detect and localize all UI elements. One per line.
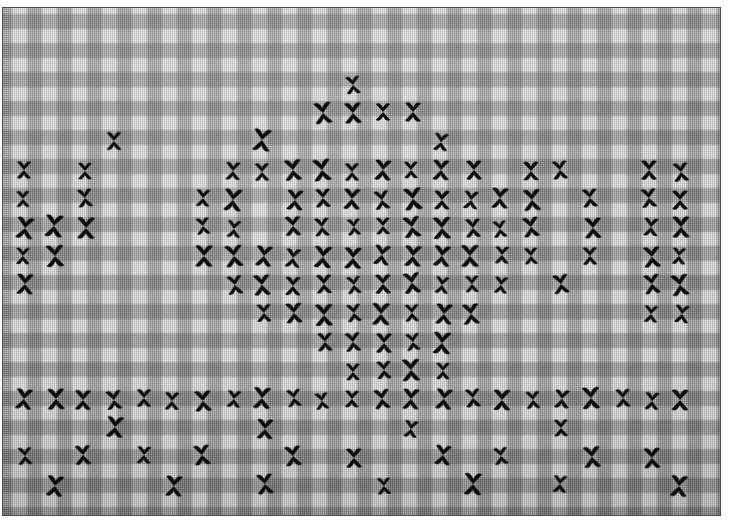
cross-stitch (343, 75, 364, 96)
cross-stitch (493, 246, 512, 265)
cross-stitch (549, 159, 570, 180)
cross-stitch (224, 274, 246, 296)
cross-stitch (462, 387, 483, 408)
cross-stitch (374, 217, 392, 235)
cross-stitch (162, 475, 185, 498)
cross-stitch (491, 219, 511, 239)
cross-stitch (282, 276, 302, 296)
cross-stitch (251, 274, 274, 297)
cross-stitch (372, 274, 393, 295)
cross-stitch (43, 474, 67, 498)
cross-stitch (581, 217, 603, 239)
cross-stitch (430, 159, 452, 181)
cross-stitch (344, 303, 364, 323)
cross-stitch (375, 477, 394, 496)
cross-stitch (430, 216, 454, 240)
cross-stitch (403, 332, 423, 352)
cross-stitch (281, 445, 304, 468)
cross-stitch (249, 128, 275, 154)
cross-stitch (432, 190, 452, 210)
cross-stitch (310, 101, 335, 126)
cross-stitch (12, 216, 37, 241)
cross-stitch (344, 275, 364, 295)
cross-stitch-layer (3, 8, 720, 515)
cross-stitch (667, 474, 691, 498)
cross-stitch (191, 389, 214, 412)
cross-stitch (371, 189, 393, 211)
cross-stitch (400, 215, 425, 240)
cross-stitch (580, 247, 599, 266)
cross-stitch (641, 217, 661, 237)
cross-stitch (399, 388, 422, 411)
cross-stitch (432, 275, 452, 295)
cross-stitch (250, 386, 274, 410)
cross-stitch (550, 273, 573, 296)
cross-stitch (400, 271, 424, 295)
cross-stitch (341, 246, 364, 269)
cross-stitch (193, 189, 212, 208)
cross-stitch (223, 161, 243, 181)
gingham-fabric-panel (3, 8, 720, 515)
cross-stitch (459, 244, 482, 267)
cross-stitch (15, 190, 32, 207)
cross-stitch (552, 418, 571, 437)
cross-stitch (639, 188, 661, 210)
cross-stitch (402, 303, 421, 322)
cross-stitch (668, 273, 693, 298)
cross-stitch (403, 102, 424, 123)
cross-stitch (432, 302, 455, 325)
cross-stitch (371, 243, 394, 266)
cross-stitch (642, 391, 662, 411)
cross-stitch (639, 159, 659, 179)
cross-stitch (340, 187, 363, 210)
cross-stitch (640, 446, 662, 468)
cross-stitch (579, 187, 600, 208)
cross-stitch (343, 162, 362, 181)
cross-stitch (281, 158, 305, 182)
cross-stitch (372, 159, 395, 182)
cross-stitch (314, 274, 335, 295)
cross-stitch (73, 389, 94, 410)
cross-stitch (460, 190, 481, 211)
cross-stitch (73, 445, 94, 466)
cross-stitch (401, 244, 424, 267)
cross-stitch (370, 302, 394, 326)
cross-stitch (399, 358, 423, 382)
cross-stitch (640, 245, 663, 268)
cross-stitch (224, 219, 244, 239)
cross-stitch (519, 215, 542, 238)
cross-stitch (401, 419, 421, 439)
cross-stitch (134, 389, 153, 408)
cross-stitch (74, 217, 97, 240)
cross-stitch (282, 247, 304, 269)
cross-stitch (254, 303, 273, 322)
cross-stitch (640, 273, 663, 296)
cross-stitch (253, 472, 276, 495)
cross-stitch (400, 186, 426, 212)
cross-stitch (463, 160, 484, 181)
cross-stitch (12, 387, 36, 411)
cross-stitch (192, 244, 215, 267)
cross-stitch (462, 218, 483, 239)
cross-stitch (489, 187, 512, 210)
cross-stitch (374, 103, 393, 122)
cross-stitch (15, 446, 34, 465)
cross-stitch (282, 216, 303, 237)
cross-stitch (579, 386, 603, 410)
photograph (0, 0, 734, 529)
cross-stitch (371, 388, 393, 410)
cross-stitch (342, 101, 365, 124)
cross-stitch (74, 187, 95, 208)
cross-stitch (672, 304, 693, 325)
cross-stitch (461, 472, 485, 496)
cross-stitch (344, 447, 365, 468)
cross-stitch (312, 391, 332, 411)
cross-stitch (459, 302, 482, 325)
cross-stitch (669, 389, 691, 411)
cross-stitch (343, 390, 362, 409)
cross-stitch (313, 303, 337, 327)
cross-stitch (41, 213, 66, 238)
cross-stitch (43, 244, 67, 268)
cross-stitch (670, 247, 689, 266)
cross-stitch (344, 363, 362, 381)
